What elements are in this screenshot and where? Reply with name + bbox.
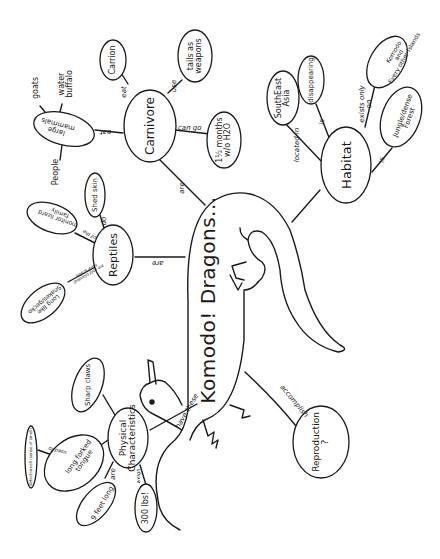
link-label-weigh: weigh [136,469,141,484]
link-label-is-jungle: is [379,157,386,163]
central-topic-label: Komodo! Dragons... [198,196,218,403]
node-reptiles: Reptiles [108,233,119,277]
node-sharp-claws: Sharp claws [85,364,92,406]
node-goats: goats [32,77,40,99]
node-reproduction: Reproduction ? [312,412,330,472]
node-weight: 300 lbs! [142,492,150,525]
link-label-located-in: located in [294,128,301,162]
link-label-eat-mammals: eat [100,128,111,135]
link-label-exists-only: exists only on [359,85,373,122]
link-mammals-goats [40,106,45,112]
link-label-is-disappearing: is [319,119,326,125]
link-mammals-buffalo [60,104,62,112]
link-label-are-length: are [110,468,117,479]
node-disappearing: disappearing [308,57,315,103]
link-label-are-carnivore: are [179,182,186,193]
node-sense-of-smell: detect/smell (sense of smell) [29,428,33,486]
node-water-months: 1½ months w/o H2O [216,117,232,163]
link-physical-claws [103,395,115,415]
node-people: People [52,159,60,186]
link-habitat-asia [284,122,322,162]
link-label-eat-carrion: eat [121,86,128,97]
node-carnivore: Carnivore [144,97,156,155]
node-tails-weapons: tails as weapons [187,38,203,74]
link-label-cango: can go [178,125,202,132]
link-physical-weight [140,465,146,485]
node-shed-skin: Shed skin [92,178,99,212]
node-physical-characteristics: Physical Characteristics [119,404,137,471]
link-label-do: do [101,217,108,226]
link-center-habitat [292,190,320,222]
link-mammals-people [60,145,62,160]
dragon-drawing [140,193,345,530]
node-southeast-asia: SouthEast Asia [275,78,291,119]
node-carrion: Carrion [109,45,117,74]
link-label-use: use [171,80,178,92]
node-habitat: Habitat [340,141,353,189]
link-label-are-reptiles: are [152,259,163,266]
node-water-buffalo: water buffalo [58,70,74,98]
